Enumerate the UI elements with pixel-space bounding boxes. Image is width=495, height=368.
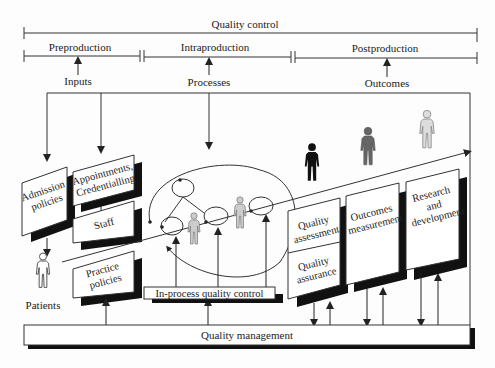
driver-inputs: Inputs [58,75,98,87]
patient-figure-icon [36,253,49,287]
driver-outcomes: Outcomes [362,77,412,89]
quality-assessment-box [288,198,348,307]
staff-figure-icon [234,197,246,228]
in-process-qc-label: In-process quality control [144,288,275,300]
process-loop [149,165,295,277]
staff-figure-icon [188,213,200,244]
patients-label: Patients [18,299,68,311]
phase-intraproduction: Intraproduction [175,41,255,53]
outcome-figure-icon [420,110,434,147]
outcome-figure-icon [305,143,319,180]
outcome-figure-icon [361,127,375,164]
phase-postproduction: Postproduction [345,42,425,54]
driver-processes: Processes [184,76,234,88]
outcomes-measurement-box [346,183,407,292]
quality-management-label: Quality management [24,329,470,341]
phase-preproduction: Preproduction [40,41,120,53]
quality-control-title: Quality control [200,18,290,30]
